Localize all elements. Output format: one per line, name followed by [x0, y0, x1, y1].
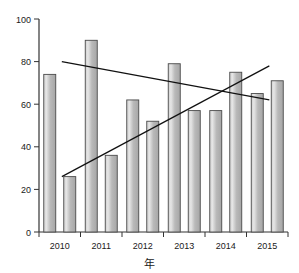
y-tick-label: 100: [16, 15, 31, 25]
bars-layer: [44, 40, 284, 232]
x-tick-labels: 201020112012201320142015: [50, 241, 278, 251]
y-axis: 020406080100: [16, 15, 39, 238]
x-tick-label-2011: 2011: [92, 241, 111, 251]
y-tick-label: 40: [21, 142, 31, 152]
x-tick-label-2013: 2013: [174, 241, 194, 251]
bar-2010-a: [44, 74, 56, 232]
bar-2013-a: [168, 64, 180, 232]
x-axis-title: 年: [144, 257, 155, 271]
x-tick-label-2015: 2015: [257, 241, 277, 251]
bar-2011-b: [105, 155, 117, 232]
y-tick-label: 60: [21, 100, 31, 110]
y-tick-label: 0: [26, 228, 31, 238]
bar-2014-a: [210, 111, 222, 232]
y-tick-label: 80: [21, 57, 31, 67]
bar-chart: 020406080100 201020112012201320142015 年: [0, 0, 299, 273]
x-tick-label-2010: 2010: [50, 241, 70, 251]
bar-2010-b: [64, 177, 76, 232]
bar-2012-a: [127, 100, 139, 232]
bar-2012-b: [147, 121, 159, 232]
bar-2011-a: [85, 40, 97, 232]
chart-canvas: 020406080100 201020112012201320142015 年: [0, 0, 299, 273]
bar-2015-a: [251, 94, 263, 232]
bar-2013-b: [188, 111, 200, 232]
x-axis: [39, 232, 288, 237]
y-tick-label: 20: [21, 185, 31, 195]
bar-2015-b: [271, 81, 283, 232]
x-tick-label-2012: 2012: [133, 241, 153, 251]
bar-2014-b: [230, 72, 242, 232]
x-tick-label-2014: 2014: [216, 241, 236, 251]
